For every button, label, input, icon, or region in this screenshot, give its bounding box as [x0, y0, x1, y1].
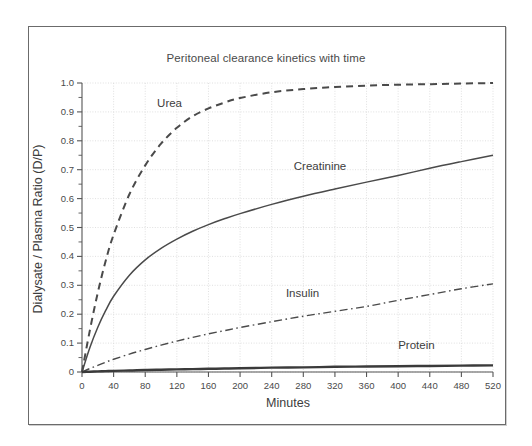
- x-tick-label: 440: [413, 380, 447, 391]
- x-axis-title: Minutes: [82, 396, 494, 410]
- y-tick-label: 0.7: [48, 164, 74, 175]
- y-tick-label: 0.9: [48, 106, 74, 117]
- y-axis-title: Dialysate / Plasma Ratio (D/P): [31, 99, 45, 359]
- axis-ticks: [77, 83, 493, 377]
- y-tick-label: 0.6: [48, 193, 74, 204]
- y-tick-label: 1.0: [48, 77, 74, 88]
- x-tick-label: 320: [318, 380, 352, 391]
- x-tick-label: 120: [160, 380, 194, 391]
- series-label-urea: Urea: [157, 97, 182, 109]
- series-label-creatinine: Creatinine: [294, 160, 346, 172]
- series-label-insulin: Insulin: [286, 287, 319, 299]
- x-tick-label: 40: [97, 380, 131, 391]
- x-tick-label: 280: [286, 380, 320, 391]
- y-tick-label: 0: [48, 366, 74, 377]
- x-tick-label: 240: [255, 380, 289, 391]
- series-label-protein: Protein: [398, 339, 434, 351]
- y-tick-label: 0.1: [48, 337, 74, 348]
- chart-title: Peritoneal clearance kinetics with time: [0, 52, 532, 64]
- x-tick-label: 480: [444, 380, 478, 391]
- y-tick-label: 0.3: [48, 279, 74, 290]
- y-tick-label: 0.4: [48, 250, 74, 261]
- x-tick-label: 520: [476, 380, 510, 391]
- x-tick-label: 400: [381, 380, 415, 391]
- x-tick-label: 0: [65, 380, 99, 391]
- x-tick-label: 200: [223, 380, 257, 391]
- x-tick-label: 360: [350, 380, 384, 391]
- y-tick-label: 0.8: [48, 135, 74, 146]
- y-tick-label: 0.5: [48, 222, 74, 233]
- x-tick-label: 160: [191, 380, 225, 391]
- gridlines: [82, 83, 493, 372]
- series-line-protein: [82, 365, 493, 372]
- chart-figure: Peritoneal clearance kinetics with time …: [0, 0, 532, 446]
- y-tick-label: 0.2: [48, 308, 74, 319]
- x-tick-label: 80: [128, 380, 162, 391]
